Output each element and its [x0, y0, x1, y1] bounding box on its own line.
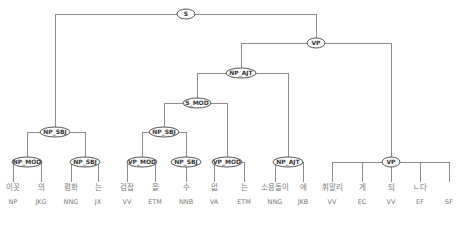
token-word: 없: [211, 183, 218, 192]
token-pos-tag: VV: [387, 198, 396, 206]
token-pos-tag: ETM: [237, 198, 251, 206]
token: 을ETM: [148, 183, 162, 206]
token-pos-tag: EF: [416, 198, 424, 206]
tree-nodes: SVPNP_AJTS_MODNP_SBJNP_SBJNP_MODNP_SBJVP…: [12, 9, 400, 167]
node-label: S: [184, 10, 188, 17]
token-word: 수: [183, 183, 190, 192]
tree-node-np_ajt1[interactable]: NP_AJT: [226, 68, 256, 78]
tree-node-np_sbj1[interactable]: NP_SBJ: [40, 127, 70, 137]
token: ㄴ다EF: [413, 183, 427, 206]
tree-tokens: 이꼿NP의JKG평화NNG는JX검잡VV을ETM수NNB없VA는ETM소용돌이N…: [6, 182, 453, 206]
token: 는JX: [94, 183, 102, 206]
token-word: ㄴ다: [413, 183, 427, 192]
token-word: 는: [241, 183, 248, 192]
token-pos-tag: JKB: [297, 198, 309, 206]
token-pos-tag: SF: [445, 198, 453, 206]
node-label: NP_AJT: [229, 69, 253, 77]
token: 이꼿NP: [6, 182, 20, 206]
tree-node-s_mod[interactable]: S_MOD: [183, 98, 211, 108]
token-word: 게: [359, 182, 366, 192]
token: 의JKG: [34, 182, 46, 206]
token-word: 의: [38, 182, 45, 192]
token-pos-tag: NP: [9, 198, 18, 206]
token: 는ETM: [237, 183, 251, 206]
token: SF: [445, 198, 453, 206]
token: 수NNB: [179, 183, 193, 206]
token-word: 평화: [64, 182, 78, 192]
node-label: S_MOD: [185, 99, 208, 107]
token-word: 소용돌이: [261, 182, 289, 192]
tree-node-np_sbj4[interactable]: NP_SBJ: [171, 157, 201, 167]
token-pos-tag: NNB: [179, 198, 193, 206]
token-pos-tag: NNG: [64, 198, 79, 206]
tree-node-np_ajt2[interactable]: NP_AJT: [273, 157, 303, 167]
token-pos-tag: NNG: [268, 198, 283, 206]
tree-node-np_sbj3[interactable]: NP_SBJ: [70, 157, 100, 167]
token: 없VA: [210, 183, 219, 206]
token-word: 이꼿: [6, 182, 20, 192]
token: 소용돌이NNG: [261, 182, 289, 206]
node-label: NP_MOD: [13, 158, 41, 166]
token-word: 는: [95, 183, 102, 192]
token-pos-tag: VV: [328, 198, 337, 206]
token-word: 을: [152, 183, 159, 192]
node-label: NP_SBJ: [174, 158, 198, 166]
node-label: NP_AJT: [276, 158, 300, 166]
token-word: 휘말리: [322, 183, 343, 192]
token-word: 검잡: [120, 182, 134, 192]
tree-node-s[interactable]: S: [177, 9, 195, 19]
parse-tree-diagram: SVPNP_AJTS_MODNP_SBJNP_SBJNP_MODNP_SBJVP…: [0, 0, 457, 225]
node-label: VP: [386, 158, 396, 165]
token: 휘말리VV: [322, 183, 343, 206]
tree-node-vp_mod1[interactable]: VP_MOD: [127, 157, 157, 167]
node-label: NP_SBJ: [152, 128, 176, 136]
token-word: 되: [388, 183, 395, 192]
token-pos-tag: VV: [123, 198, 132, 206]
node-label: VP_MOD: [213, 158, 241, 166]
token-pos-tag: JKG: [34, 198, 46, 206]
token-pos-tag: ETM: [148, 198, 162, 206]
tree-node-np_sbj2[interactable]: NP_SBJ: [149, 127, 179, 137]
token: 평화NNG: [64, 182, 79, 206]
tree-node-vp1[interactable]: VP: [307, 38, 325, 48]
token: 되VV: [387, 183, 396, 206]
node-label: NP_SBJ: [73, 158, 97, 166]
tree-node-vp_mod2[interactable]: VP_MOD: [212, 157, 242, 167]
token: 에JKB: [297, 183, 309, 206]
token: 검잡VV: [120, 182, 134, 206]
node-label: VP_MOD: [128, 158, 156, 166]
node-label: VP: [311, 39, 321, 46]
token-word: 에: [300, 183, 307, 192]
token-pos-tag: VA: [210, 198, 219, 206]
token-pos-tag: JX: [94, 198, 102, 206]
node-label: NP_SBJ: [43, 128, 67, 136]
token: 게EC: [358, 182, 367, 206]
tree-node-vp2[interactable]: VP: [382, 157, 400, 167]
tree-node-np_mod[interactable]: NP_MOD: [12, 157, 42, 167]
token-pos-tag: EC: [358, 198, 367, 206]
